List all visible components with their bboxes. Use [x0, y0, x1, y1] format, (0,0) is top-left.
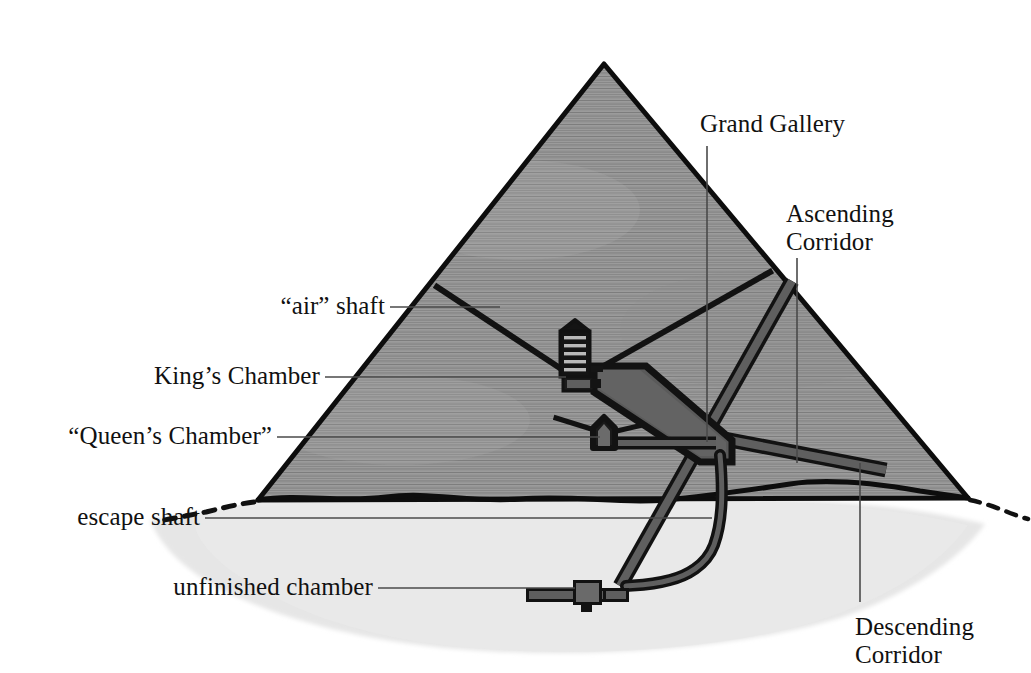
label-grand-gallery: Grand Gallery [700, 110, 845, 138]
queens-chamber [593, 417, 615, 448]
label-escape-shaft: escape shaft [0, 503, 200, 531]
label-descending-corridor-line2: Corridor [855, 641, 942, 669]
label-descending-corridor-line1: Descending [855, 613, 974, 641]
label-kings-chamber: King’s Chamber [55, 362, 320, 390]
label-ascending-corridor-line2: Corridor [786, 228, 873, 256]
label-unfinished-chamber: unfinished chamber [88, 573, 373, 601]
pyramid-cross-section-figure: Grand Gallery Ascending Corridor “air” s… [0, 0, 1031, 673]
label-air-shaft: “air” shaft [140, 292, 385, 320]
label-ascending-corridor-line1: Ascending [786, 200, 894, 228]
label-queens-chamber: “Queen’s Chamber” [10, 422, 272, 450]
